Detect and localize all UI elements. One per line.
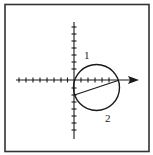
diagram-canvas: 1 2 [0,0,153,155]
region-label-1: 1 [84,49,90,61]
chord-segment [75,81,119,96]
diagram-frame [5,5,149,152]
region-label-2: 2 [105,112,111,124]
